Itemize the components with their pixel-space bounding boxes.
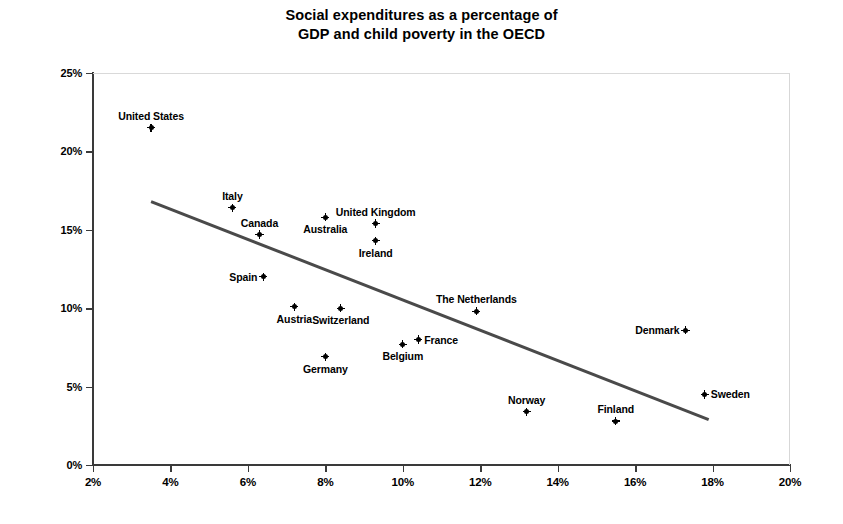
data-label-australia: Australia [303, 223, 347, 235]
data-label-italy: Italy [222, 190, 243, 202]
y-tick-0 [86, 465, 92, 466]
x-tick-12 [480, 466, 481, 472]
data-point-norway[interactable] [524, 409, 529, 414]
trendline [93, 73, 790, 465]
data-label-austria: Austria [277, 313, 312, 325]
data-label-france: France [424, 334, 458, 346]
data-label-finland: Finland [597, 403, 634, 415]
x-tick-2 [93, 466, 94, 472]
data-point-the-netherlands[interactable] [474, 309, 479, 314]
y-tick-label-25: 25% [38, 67, 82, 79]
y-tick-label-15: 15% [38, 224, 82, 236]
data-point-spain[interactable] [261, 274, 266, 279]
x-tick-label-18: 18% [688, 476, 738, 488]
y-tick-25 [86, 73, 92, 74]
trendline-segment [151, 202, 709, 420]
x-tick-label-2: 2% [68, 476, 118, 488]
y-tick-5 [86, 387, 92, 388]
x-tick-label-8: 8% [300, 476, 350, 488]
chart-title-line-2: GDP and child poverty in the OECD [0, 25, 843, 44]
data-label-switzerland: Switzerland [312, 314, 369, 326]
x-tick-20 [790, 466, 791, 472]
x-tick-label-16: 16% [610, 476, 660, 488]
chart-title-line-1: Social expenditures as a percentage of [0, 6, 843, 25]
data-point-denmark[interactable] [683, 328, 688, 333]
x-tick-label-14: 14% [533, 476, 583, 488]
data-point-united-kingdom[interactable] [373, 221, 378, 226]
x-tick-label-6: 6% [223, 476, 273, 488]
data-point-germany[interactable] [323, 354, 328, 359]
data-point-ireland[interactable] [373, 238, 378, 243]
data-point-sweden[interactable] [702, 392, 707, 397]
data-point-switzerland[interactable] [338, 306, 343, 311]
data-label-germany: Germany [303, 363, 348, 375]
x-tick-4 [170, 466, 171, 472]
data-label-canada: Canada [241, 217, 278, 229]
data-point-italy[interactable] [230, 205, 235, 210]
y-tick-label-10: 10% [38, 302, 82, 314]
y-tick-20 [86, 151, 92, 152]
scatter-chart: Social expenditures as a percentage of G… [0, 0, 843, 524]
data-label-spain: Spain [229, 271, 257, 283]
chart-title: Social expenditures as a percentage of G… [0, 6, 843, 44]
data-label-belgium: Belgium [382, 350, 423, 362]
data-label-the-netherlands: The Netherlands [436, 293, 517, 305]
data-label-sweden: Sweden [711, 388, 750, 400]
data-label-united-states: United States [118, 110, 184, 122]
data-point-united-states[interactable] [149, 125, 154, 130]
data-point-france[interactable] [416, 337, 421, 342]
data-point-belgium[interactable] [400, 342, 405, 347]
x-tick-label-10: 10% [378, 476, 428, 488]
x-tick-label-20: 20% [765, 476, 815, 488]
y-tick-label-20: 20% [38, 145, 82, 157]
x-tick-8 [325, 466, 326, 472]
x-tick-18 [713, 466, 714, 472]
x-tick-label-12: 12% [455, 476, 505, 488]
data-point-canada[interactable] [257, 232, 262, 237]
data-point-finland[interactable] [613, 419, 618, 424]
x-tick-10 [403, 466, 404, 472]
y-tick-15 [86, 230, 92, 231]
data-point-austria[interactable] [292, 304, 297, 309]
data-point-australia[interactable] [323, 215, 328, 220]
x-tick-14 [558, 466, 559, 472]
y-tick-label-5: 5% [38, 381, 82, 393]
data-label-denmark: Denmark [635, 324, 679, 336]
data-label-norway: Norway [508, 394, 545, 406]
data-label-ireland: Ireland [359, 247, 393, 259]
plot-area: United StatesItalyCanadaSpainAustriaAust… [93, 73, 790, 465]
x-tick-16 [635, 466, 636, 472]
x-tick-6 [248, 466, 249, 472]
y-tick-10 [86, 308, 92, 309]
data-label-united-kingdom: United Kingdom [336, 206, 416, 218]
y-tick-label-0: 0% [38, 459, 82, 471]
x-tick-label-4: 4% [145, 476, 195, 488]
